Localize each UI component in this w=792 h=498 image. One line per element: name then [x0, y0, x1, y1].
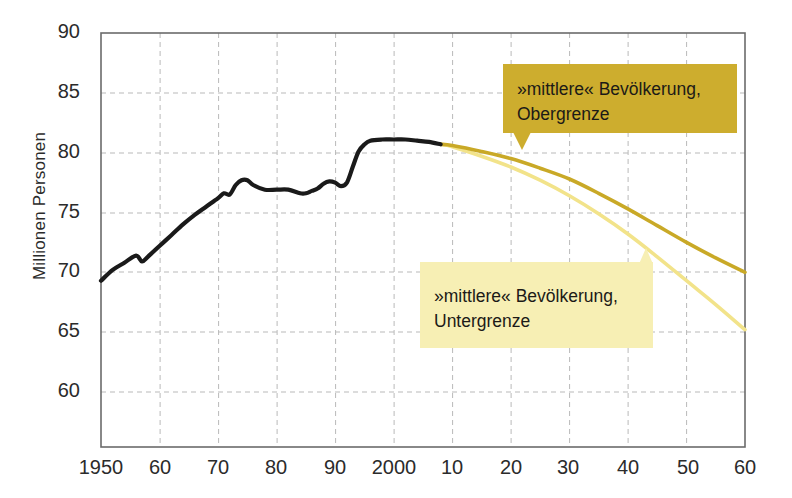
annotation-obergrenze-tail-icon [513, 132, 531, 150]
annotation-untergrenze-line1: »mittlere« Bevölkerung, [434, 284, 639, 309]
annotation-obergrenze-line1: »mittlere« Bevölkerung, [517, 77, 723, 102]
chart-page: Millionen Personen 90 85 80 75 70 65 60 … [0, 0, 792, 498]
series-line-historic [101, 139, 441, 280]
annotation-untergrenze-line2: Untergrenze [434, 309, 639, 334]
annotation-untergrenze: »mittlere« Bevölkerung, Untergrenze [420, 262, 653, 348]
annotation-obergrenze: »mittlere« Bevölkerung, Obergrenze [503, 64, 737, 133]
annotation-untergrenze-tail-icon [639, 248, 653, 264]
annotation-obergrenze-line2: Obergrenze [517, 102, 723, 127]
